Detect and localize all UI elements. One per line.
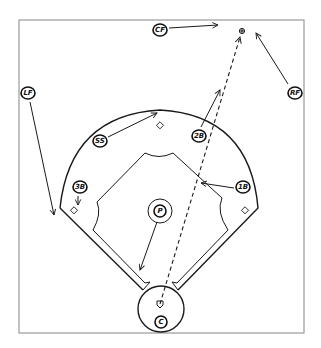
first-base-bag [241, 207, 248, 214]
1b-movement-arrow [201, 183, 234, 188]
cf-movement-arrow [169, 25, 218, 28]
player-label-text: C [158, 318, 164, 326]
ss-movement-arrow [108, 113, 157, 137]
2b-movement-arrow [201, 90, 220, 127]
second-base-bag [156, 122, 163, 129]
player-label-text: 3B [75, 183, 85, 191]
player-label-3b: 3B [73, 181, 87, 193]
lf-movement-arrow [30, 102, 54, 215]
player-label-ss: SS [93, 135, 107, 147]
player-label-2b: 2B [192, 130, 206, 142]
player-label-p: P [154, 205, 166, 217]
player-label-c: C [155, 316, 167, 328]
third-base-bag [70, 207, 77, 214]
baseball-defense-diagram: CF LF RF SS 2B 3B 1B P C [0, 0, 321, 348]
player-label-text: P [157, 207, 163, 215]
infield-grass-outline [93, 153, 228, 283]
player-label-text: CF [155, 26, 165, 34]
player-label-lf: LF [21, 87, 35, 99]
ball-flight-path [160, 37, 240, 304]
player-movement-arrows [30, 25, 288, 270]
home-plate-icon [157, 301, 163, 308]
p-movement-arrow [140, 222, 157, 270]
player-label-text: RF [290, 89, 300, 97]
left-foul-line [60, 208, 143, 290]
player-label-text: LF [23, 89, 32, 97]
player-label-text: SS [95, 137, 105, 145]
player-label-1b: 1B [236, 181, 250, 193]
player-label-cf: CF [153, 24, 167, 36]
rf-movement-arrow [256, 33, 288, 84]
player-label-text: 1B [238, 183, 248, 191]
outfield-boundary [60, 110, 258, 290]
player-label-text: 2B [194, 132, 204, 140]
player-label-rf: RF [288, 87, 302, 99]
